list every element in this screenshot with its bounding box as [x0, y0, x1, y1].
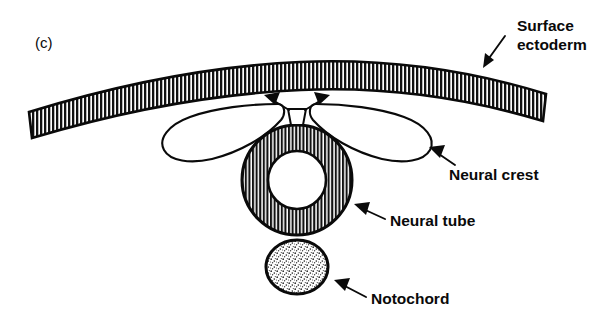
surface-ectoderm-label-line1: Surface [517, 17, 574, 34]
neurulation-diagram: (c) [0, 0, 610, 323]
notochord-leader [334, 278, 366, 297]
neurulation-figure: (c) [0, 0, 610, 323]
notochord-arrow-head [334, 278, 350, 291]
neural-tube-leader [354, 202, 385, 219]
migration-arrow-stem [288, 109, 306, 125]
surface-ectoderm-arrow-head [483, 53, 494, 68]
notochord-structure [266, 240, 328, 294]
neural-tube-structure [238, 120, 358, 242]
neural-tube-label: Neural tube [390, 212, 476, 229]
neural-tube-lumen-outline [268, 151, 326, 209]
surface-ectoderm-label-line2: ectoderm [517, 36, 587, 53]
surface-ectoderm-leader [483, 36, 505, 68]
notochord-ellipse [266, 240, 328, 294]
neural-crest-leader [429, 145, 455, 165]
neural-tube-arrow-head [354, 202, 370, 215]
neural-tube-hatching [238, 120, 358, 242]
neural-crest-label: Neural crest [449, 166, 539, 183]
notochord-label: Notochord [371, 290, 449, 307]
panel-label: (c) [35, 34, 53, 51]
neural-crest-migration-arrows [264, 92, 330, 125]
